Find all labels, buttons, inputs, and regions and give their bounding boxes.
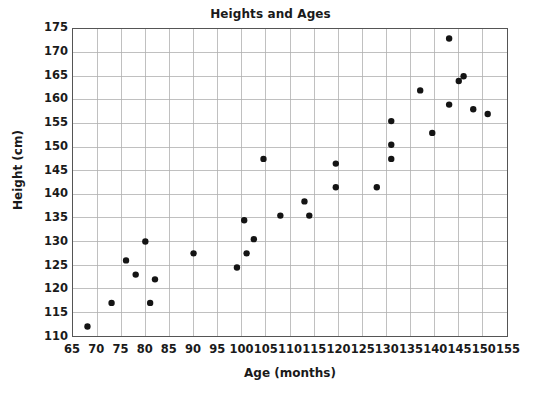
data-point (277, 212, 283, 218)
x-tick-label: 155 (488, 344, 528, 356)
data-point (388, 156, 394, 162)
data-point (84, 323, 90, 329)
data-point (446, 35, 452, 41)
chart-title: Heights and Ages (0, 7, 541, 21)
data-point (152, 276, 158, 282)
y-tick-label: 125 (4, 260, 68, 272)
data-point (301, 198, 307, 204)
data-point (241, 217, 247, 223)
y-tick-label: 110 (4, 331, 68, 343)
y-tick-label: 175 (4, 22, 68, 34)
data-point (306, 212, 312, 218)
data-point (251, 236, 257, 242)
data-point (123, 257, 129, 263)
y-tick-label: 165 (4, 70, 68, 82)
data-point (374, 184, 380, 190)
data-point (333, 160, 339, 166)
x-axis-tick-labels: 6570758085909510010511011512012513013514… (72, 344, 508, 360)
data-point (243, 250, 249, 256)
data-points-layer (73, 29, 507, 336)
data-point (388, 142, 394, 148)
data-point (133, 271, 139, 277)
data-point (190, 250, 196, 256)
data-point (108, 300, 114, 306)
data-point (417, 87, 423, 93)
data-point (147, 300, 153, 306)
data-point (446, 101, 452, 107)
y-axis-title: Height (cm) (11, 100, 25, 240)
data-point (333, 184, 339, 190)
data-point (260, 156, 266, 162)
y-tick-label: 115 (4, 307, 68, 319)
data-point (142, 238, 148, 244)
data-point (456, 78, 462, 84)
data-point (388, 118, 394, 124)
plot-area (72, 28, 508, 337)
x-axis-title: Age (months) (72, 366, 508, 380)
data-point (429, 130, 435, 136)
data-point (470, 106, 476, 112)
data-point (234, 264, 240, 270)
data-point (460, 73, 466, 79)
y-tick-label: 120 (4, 284, 68, 296)
scatter-chart: Heights and Ages 11011512012513013514014… (0, 0, 541, 393)
data-point (485, 111, 491, 117)
y-tick-label: 170 (4, 46, 68, 58)
